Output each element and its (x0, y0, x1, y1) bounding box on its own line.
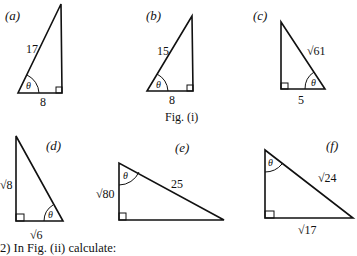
triangle-label-e: (e) (175, 141, 189, 154)
triangle-label-f: (f) (326, 139, 338, 152)
figure-caption: Fig. (i) (165, 111, 198, 123)
question-text: 2) In Fig. (ii) calculate: (0, 241, 116, 256)
angle-theta-a: θ (26, 81, 31, 91)
hypotenuse-length-b: 15 (157, 45, 169, 57)
angle-theta-f: θ (268, 158, 273, 168)
triangle-label-a: (a) (5, 9, 20, 22)
triangle-label-b: (b) (146, 9, 161, 22)
right-angle-marker-b (187, 85, 193, 91)
base-length-c: 5 (298, 94, 304, 106)
right-angle-marker-d (16, 214, 24, 221)
hypotenuse-length-e: 25 (171, 178, 183, 190)
angle-theta-d: θ (48, 210, 53, 220)
right-angle-marker-c (281, 83, 288, 89)
triangle-label-d: (d) (46, 139, 61, 152)
hypotenuse-length-c: √61 (307, 45, 326, 57)
base-length-b: 8 (169, 94, 175, 106)
vertical-length-d: √8 (0, 179, 13, 191)
base-length-f: √17 (298, 224, 317, 236)
triangle-f (265, 150, 353, 218)
angle-arc-e (119, 172, 139, 185)
hypotenuse-length-a: 17 (26, 43, 38, 55)
angle-theta-c: θ (311, 78, 316, 88)
angle-theta-b: θ (156, 80, 161, 90)
hypotenuse-length-f: √24 (318, 172, 337, 184)
right-angle-marker-e (119, 213, 126, 220)
triangle-e (119, 163, 224, 220)
triangle-label-c: (c) (253, 9, 267, 22)
base-length-a: 8 (40, 96, 46, 108)
vertical-length-e: √80 (96, 188, 115, 200)
base-length-d: √6 (30, 229, 43, 241)
right-angle-marker-f (265, 211, 274, 218)
triangle-b (147, 16, 193, 91)
angle-theta-e: θ (123, 171, 128, 181)
right-angle-marker-a (56, 87, 62, 93)
triangle-a (18, 4, 62, 93)
